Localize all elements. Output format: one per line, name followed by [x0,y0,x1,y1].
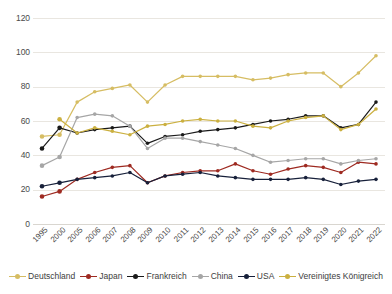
data-point [128,164,132,168]
data-point [339,85,343,89]
data-point [321,71,325,75]
data-point [357,179,361,183]
data-point [93,176,97,180]
series-deutschland [40,54,378,139]
data-point [40,184,45,189]
data-point [321,166,325,170]
legend-label: Japan [99,272,122,281]
data-point [75,100,79,104]
data-point [251,154,255,158]
legend-item-vereinigtes-k-nigreich[interactable]: Vereinigtes Königreich [279,272,383,281]
data-point [269,160,273,164]
data-point [111,166,115,170]
data-point [198,140,202,144]
legend-marker-dot [15,274,20,279]
legend-item-deutschland[interactable]: Deutschland [9,272,75,281]
data-point [234,147,238,151]
data-point [374,54,378,58]
legend-swatch-icon [9,273,26,280]
data-point [198,171,202,175]
data-point [269,172,273,176]
data-point [40,146,45,151]
data-point [128,124,132,128]
data-point [181,75,185,79]
data-point [40,194,45,199]
series-vereinigtes-k-nigreich [57,107,378,136]
data-point [216,75,220,79]
data-point [286,167,290,171]
legend-label: USA [257,272,274,281]
data-point [304,176,308,180]
data-point [57,189,62,194]
data-point [40,163,45,168]
data-point [146,100,150,104]
legend-item-china[interactable]: China [192,272,233,281]
data-point [128,83,132,87]
legend-marker-dot [86,274,91,279]
legend-marker-dot [244,274,249,279]
series-line [42,162,376,196]
data-point [111,87,115,91]
legend-label: China [211,272,233,281]
data-point [181,136,185,140]
data-point [57,181,62,186]
data-point [216,143,220,147]
data-point [111,174,115,178]
data-point [181,133,185,137]
data-point [269,119,273,123]
data-point [111,130,115,134]
data-point [357,159,361,163]
x-axis: 1995200020052006200720082009201020112012… [33,224,385,264]
data-point [181,119,185,123]
series-japan [40,160,378,198]
data-point [339,162,343,166]
data-point [251,178,255,182]
data-point [216,128,220,132]
data-point [111,126,115,130]
data-point [374,162,378,166]
data-point [75,131,79,135]
data-point [321,114,325,118]
data-point [269,76,273,80]
chart-legend: DeutschlandJapanFrankreichChinaUSAVerein… [0,272,392,281]
legend-marker-dot [133,274,138,279]
y-tick-label-40: 40 [2,151,30,160]
data-point [57,132,62,137]
plot-area [33,18,385,224]
data-point [93,126,97,130]
series-line [42,114,376,166]
data-point [75,178,79,182]
data-point [93,90,97,94]
legend-swatch-icon [127,273,144,280]
data-point [304,71,308,75]
data-point [251,124,255,128]
data-point [286,178,290,182]
data-point [357,123,361,127]
data-point [198,130,202,134]
legend-marker-dot [285,274,290,279]
data-point [339,171,343,175]
legend-item-frankreich[interactable]: Frankreich [127,272,186,281]
line-chart: 020406080100120 199520002005200620072008… [0,0,392,294]
data-point [339,183,343,187]
data-point [251,78,255,82]
legend-item-usa[interactable]: USA [238,272,274,281]
data-point [374,178,378,182]
data-point [181,172,185,176]
data-point [234,126,238,130]
data-point [374,107,378,111]
data-point [163,174,167,178]
legend-item-japan[interactable]: Japan [80,272,122,281]
data-point [163,83,167,87]
y-tick-label-20: 20 [2,185,30,194]
data-point [234,75,238,79]
y-tick-label-60: 60 [2,117,30,126]
data-point [57,117,62,122]
y-tick-label-0: 0 [2,220,30,229]
data-point [146,142,150,146]
data-point [57,126,62,131]
data-point [269,126,273,130]
data-point [198,117,202,121]
data-point [128,171,132,175]
data-point [321,178,325,182]
